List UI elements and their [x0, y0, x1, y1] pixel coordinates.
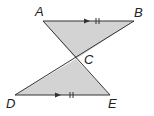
geometry-diagram: A B C D E	[0, 0, 154, 116]
label-d: D	[6, 96, 15, 111]
label-e: E	[108, 96, 117, 111]
triangle-dce	[15, 59, 110, 95]
label-c: C	[84, 52, 94, 67]
label-a: A	[34, 4, 44, 19]
label-b: B	[134, 5, 143, 20]
